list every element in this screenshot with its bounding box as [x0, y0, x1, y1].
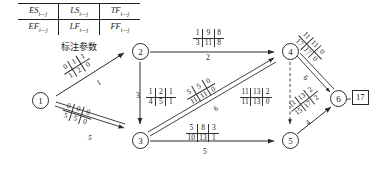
p-4-5-lf: 13: [251, 97, 263, 106]
p-2-3-es: 1: [146, 88, 156, 97]
node-3[interactable]: 3: [132, 132, 149, 149]
p-3-5-ff: 1: [209, 133, 219, 142]
p-3-5-ls: 8: [197, 124, 209, 133]
params-activity-2-4: 1 9 8 3 11 8: [193, 29, 224, 47]
p-4-5-es: 11: [240, 88, 251, 97]
p-2-3-ff: 1: [166, 97, 176, 106]
p-2-4-tf: 8: [214, 29, 224, 38]
p-2-3-lf: 5: [156, 97, 166, 106]
p-2-3-ef: 4: [146, 97, 156, 106]
params-activity-2-3: 1 2 1 4 5 1: [146, 88, 176, 106]
cpm-network-diagram-page: ESi—j LSi—j TFi—j EFi—j LFi—j FFi—j 标注参数: [0, 0, 380, 169]
p-4-5-ls: 13: [251, 88, 263, 97]
diagram-edges-layer: [0, 0, 380, 169]
p-2-4-es: 1: [193, 29, 203, 38]
p-2-3-tf: 1: [166, 88, 176, 97]
p-3-5-ef: 10: [186, 133, 197, 142]
node-6[interactable]: 6: [330, 90, 347, 107]
duration-activity-2-4: 2: [206, 53, 210, 62]
p-2-4-ff: 8: [214, 38, 224, 47]
params-activity-3-5: 5 8 3 10 13 1: [186, 124, 219, 142]
duration-activity-2-3: 3: [136, 91, 140, 100]
node-1[interactable]: 1: [32, 92, 49, 109]
p-2-4-lf: 11: [203, 38, 214, 47]
node-2[interactable]: 2: [132, 43, 149, 60]
node-5[interactable]: 5: [282, 132, 299, 149]
p-2-4-ls: 9: [203, 29, 214, 38]
params-activity-4-5: 11 13 2 11 13 0: [240, 88, 272, 106]
p-2-3-ls: 2: [156, 88, 166, 97]
p-4-5-tf: 2: [263, 88, 273, 97]
duration-activity-3-5: 5: [203, 147, 207, 156]
p-4-5-ff: 0: [263, 97, 273, 106]
p-3-5-lf: 13: [197, 133, 209, 142]
p-3-5-es: 5: [186, 124, 197, 133]
p-3-5-tf: 3: [209, 124, 219, 133]
p-2-4-ef: 3: [193, 38, 203, 47]
project-finish-time-box: 17: [352, 90, 369, 105]
p-4-5-ef: 11: [240, 97, 251, 106]
